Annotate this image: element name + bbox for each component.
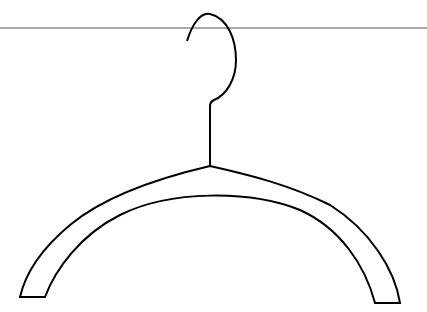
hanger-body — [20, 166, 400, 303]
hanger-illustration — [0, 0, 427, 312]
